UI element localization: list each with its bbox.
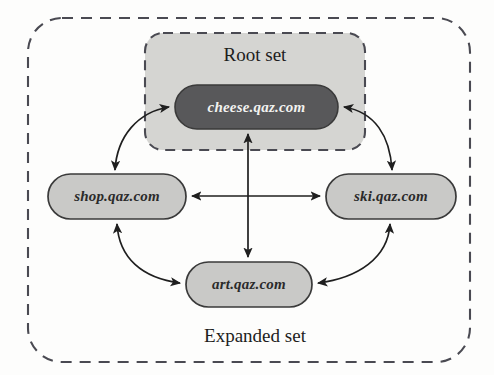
edge-ski-art (318, 224, 390, 283)
link-graph-diagram: cheese.qaz.com shop.qaz.com ski.qaz.com … (0, 0, 494, 375)
node-ski[interactable] (326, 174, 456, 219)
root-set-label: Root set (145, 44, 365, 66)
node-shop[interactable] (48, 174, 186, 219)
node-art[interactable] (186, 262, 312, 307)
edge-shop-art (117, 224, 180, 283)
expanded-set-label: Expanded set (145, 325, 365, 347)
node-cheese[interactable] (175, 85, 338, 129)
